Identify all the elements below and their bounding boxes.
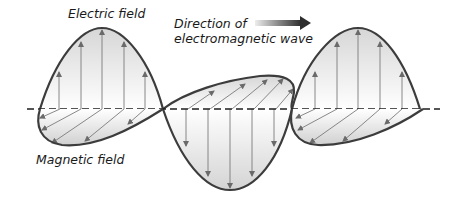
direction-label: Direction of electromagnetic wave [174, 16, 313, 46]
direction-label-line1: Direction of [174, 16, 313, 31]
electric-lobe-2 [163, 109, 292, 190]
electric-field-label: Electric field [68, 6, 145, 21]
magnetic-lobe-1 [38, 109, 163, 145]
electric-lobe-1 [40, 28, 163, 109]
em-wave-diagram: Electric field Direction of electromagne… [0, 0, 456, 203]
direction-label-line2: electromagnetic wave [174, 31, 313, 46]
magnetic-field-label: Magnetic field [36, 152, 124, 167]
magnetic-lobe-3 [291, 109, 423, 145]
magnetic-lobe-middle [163, 76, 294, 109]
